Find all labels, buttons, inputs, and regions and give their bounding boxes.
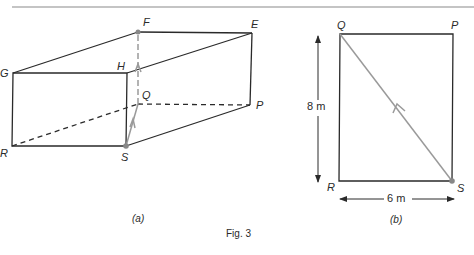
vertex-label-q-b: Q	[337, 20, 346, 31]
vertex-label-r: R	[0, 148, 8, 159]
figure-canvas	[0, 0, 474, 255]
vertex-label-q: Q	[142, 90, 151, 101]
point-s-dot-b	[449, 178, 455, 184]
displacement-path-a	[126, 32, 141, 146]
figure-caption: Fig. 3	[226, 229, 251, 239]
vertex-label-r-b: R	[327, 182, 335, 193]
point-s-dot	[123, 143, 129, 149]
vertex-label-f: F	[143, 17, 150, 28]
vertex-label-s: S	[121, 152, 128, 163]
vertex-label-p: P	[256, 100, 263, 111]
diagonal-path-b	[340, 34, 452, 181]
width-label: 6 m	[385, 193, 407, 204]
vertex-label-g: G	[0, 68, 9, 79]
vertex-label-s-b: S	[457, 183, 464, 194]
vertex-label-e: E	[251, 19, 258, 30]
vertex-label-h: H	[117, 61, 125, 72]
height-label: 8 m	[305, 101, 327, 112]
cuboid-diagram	[12, 32, 252, 146]
vertex-label-p-b: P	[451, 20, 458, 31]
point-f-dot	[136, 30, 141, 35]
panel-a-caption: (a)	[132, 214, 144, 224]
panel-b-caption: (b)	[390, 215, 402, 225]
